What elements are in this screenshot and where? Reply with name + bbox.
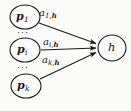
edge-pi-h-label: ai,h bbox=[43, 37, 59, 49]
node-pi-subscript: i bbox=[25, 48, 27, 57]
node-p1-label: p1 bbox=[16, 11, 29, 24]
node-pk-base: p bbox=[17, 79, 25, 92]
edges-group bbox=[39, 23, 96, 79]
edge-pk-h-label: ak,h bbox=[42, 55, 60, 67]
edge-pi-h-label-target: h bbox=[53, 40, 58, 49]
edge-pi-h-label-subscript: i,h bbox=[49, 41, 59, 49]
edge-p1-h-label: a1,h bbox=[39, 8, 57, 20]
edge-pk-h-label-subscript: k,h bbox=[48, 59, 60, 67]
node-pi-label: pi bbox=[17, 44, 27, 57]
node-p1-subscript: 1 bbox=[24, 15, 29, 24]
ellipsis-upper-icon: ··· bbox=[17, 29, 29, 38]
node-p1-base: p bbox=[16, 10, 24, 23]
node-h-base: h bbox=[108, 40, 115, 54]
node-pk-subscript: k bbox=[25, 84, 30, 93]
node-pi-base: p bbox=[17, 43, 25, 56]
node-pk-label: pk bbox=[17, 80, 30, 93]
attention-graph-figure: p1 pi pk h ··· ··· a1,h ai,h ak,h bbox=[0, 0, 131, 111]
edge-p1-h-label-subscript: 1,h bbox=[45, 12, 57, 20]
edge-p1-h-label-index: 1, bbox=[45, 12, 52, 20]
node-h-label: h bbox=[108, 42, 115, 54]
ellipsis-lower-icon: ··· bbox=[17, 64, 29, 73]
edge-p1-h-label-target: h bbox=[52, 11, 57, 20]
edge-pk-h-label-target: h bbox=[54, 58, 59, 67]
